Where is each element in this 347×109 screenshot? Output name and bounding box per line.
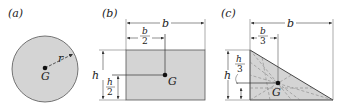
half-width-den: 2 bbox=[142, 36, 148, 46]
centroid-dot bbox=[276, 81, 281, 86]
radius-label: r bbox=[58, 52, 64, 65]
half-width-num: b bbox=[142, 26, 148, 36]
centroid-label-a: G bbox=[41, 70, 50, 83]
figure-a: (a) G r bbox=[8, 7, 78, 102]
centroid-label-c: G bbox=[272, 86, 281, 99]
figure-b: (b) b b 2 G h h 2 bbox=[92, 7, 205, 100]
figure-c: (c) b b 3 G bbox=[221, 7, 333, 100]
centroid-label-b: G bbox=[168, 75, 177, 88]
third-width-den: 3 bbox=[260, 36, 266, 46]
centroid-dot bbox=[163, 73, 168, 78]
figure-b-label: (b) bbox=[102, 7, 118, 20]
centroid-diagram: (a) G r (b) b b 2 G h bbox=[0, 0, 347, 109]
half-height-num: h bbox=[107, 77, 113, 87]
figure-c-label: (c) bbox=[221, 7, 236, 20]
third-width-num: b bbox=[260, 26, 266, 36]
figure-a-label: (a) bbox=[8, 7, 23, 20]
height-label-c: h bbox=[224, 69, 231, 82]
height-label-b: h bbox=[92, 69, 99, 82]
width-label-b: b bbox=[162, 17, 169, 30]
third-height-den: 3 bbox=[237, 64, 243, 74]
width-label-c: b bbox=[287, 17, 294, 30]
half-height-den: 2 bbox=[107, 87, 113, 97]
third-height-num: h bbox=[236, 54, 242, 64]
